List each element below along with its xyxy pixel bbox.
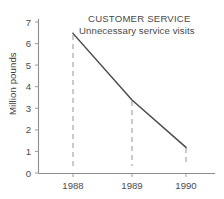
y-tick-label: 0	[26, 168, 31, 179]
y-tick-label: 7	[26, 17, 31, 28]
y-tick-label: 5	[26, 60, 31, 71]
chart-subtitle: Unnecessary service visits	[79, 25, 195, 36]
y-tick-label: 1	[26, 146, 31, 157]
x-tick-label-1988: 1988	[62, 180, 83, 191]
x-tick-label-1989: 1989	[121, 180, 142, 191]
droplines	[73, 35, 186, 166]
line-chart: CUSTOMER SERVICE Unnecessary service vis…	[0, 0, 224, 199]
x-tick-label-1990: 1990	[175, 180, 196, 191]
y-axis-tick-labels: 7 6 5 4 3 2 1 0	[26, 17, 32, 179]
y-axis-label: Million pounds	[7, 52, 18, 115]
y-tick-label: 2	[26, 124, 31, 135]
chart-title: CUSTOMER SERVICE	[88, 13, 191, 24]
y-tick-label: 6	[26, 38, 31, 49]
data-series-line	[73, 33, 186, 147]
y-tick-label: 3	[26, 103, 31, 114]
x-axis-tick-labels: 1988 1989 1990	[62, 180, 196, 191]
chart-container: CUSTOMER SERVICE Unnecessary service vis…	[0, 0, 224, 199]
y-tick-label: 4	[26, 81, 32, 92]
